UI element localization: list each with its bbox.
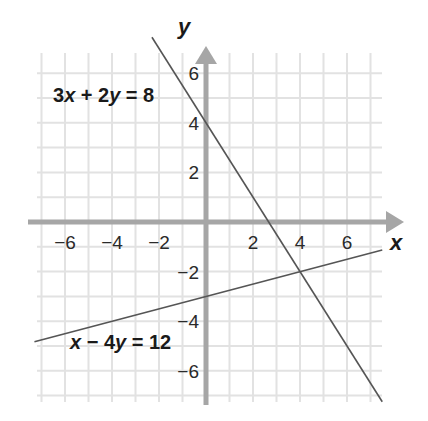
x-tick-label: 2: [248, 232, 259, 253]
y-axis-arrow-icon: [195, 46, 217, 64]
x-tick-label: −4: [101, 232, 123, 253]
x-tick-label: −6: [54, 232, 76, 253]
equation-label-2: x − 4y = 12: [69, 331, 171, 353]
y-tick-label: −6: [177, 361, 199, 382]
coordinate-plane: −6−4−2246642−2−4−6 x y 3x + 2y = 8 x − 4…: [0, 0, 428, 421]
x-tick-label: 6: [342, 232, 353, 253]
y-tick-label: 4: [188, 113, 199, 134]
y-tick-label: 6: [188, 63, 199, 84]
x-tick-label: 4: [295, 232, 306, 253]
y-tick-label: −2: [177, 262, 199, 283]
y-axis-label: y: [177, 14, 192, 39]
equation-label-1: 3x + 2y = 8: [53, 84, 154, 106]
y-tick-label: −4: [177, 311, 199, 332]
y-tick-label: 2: [188, 162, 199, 183]
x-axis-label: x: [389, 230, 403, 255]
x-tick-label: −2: [148, 232, 170, 253]
